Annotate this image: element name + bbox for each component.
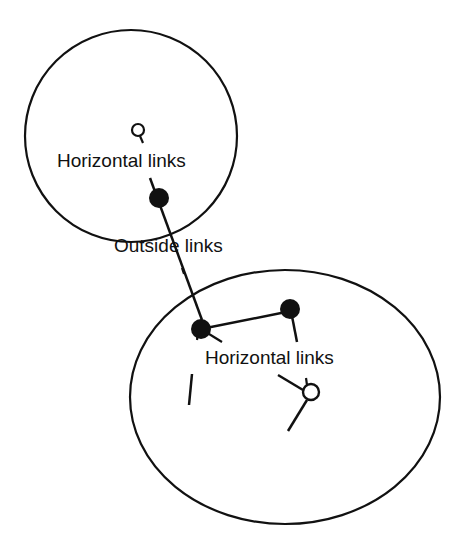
top-cluster <box>25 30 237 242</box>
network-diagram: Horizontal links Outside links Horizonta… <box>0 0 461 545</box>
bottom-left-node <box>191 319 211 339</box>
label-outside-links: Outside links <box>114 235 223 256</box>
top-boundary-node <box>149 188 169 208</box>
bottom-right-node <box>280 299 300 319</box>
top-open-node <box>132 124 144 143</box>
link-stub <box>189 374 192 405</box>
horizontal-link <box>201 311 291 329</box>
label-bottom-horizontal: Horizontal links <box>205 347 334 368</box>
label-top-horizontal: Horizontal links <box>57 150 186 171</box>
bottom-open-node <box>278 375 319 431</box>
